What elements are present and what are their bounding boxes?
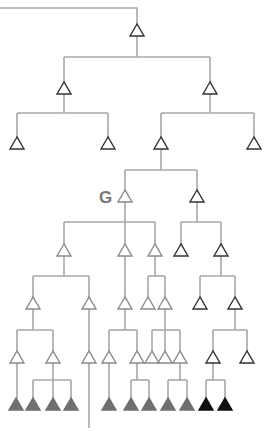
- open-triangle-node-icon: [214, 244, 228, 256]
- filled-gray-triangle-leaf-icon: [180, 398, 194, 410]
- open-triangle-node-icon: [46, 351, 60, 363]
- open-triangle-node-icon: [154, 137, 168, 149]
- open-triangle-node-icon: [26, 297, 40, 309]
- filled-gray-triangle-leaf-icon: [64, 398, 78, 410]
- open-triangle-node-icon: [10, 351, 24, 363]
- open-triangle-node-icon: [173, 351, 187, 363]
- tree-nodes: [9, 24, 261, 410]
- filled-gray-triangle-leaf-icon: [124, 398, 138, 410]
- open-triangle-node-icon: [130, 24, 144, 36]
- open-triangle-node-icon: [174, 244, 188, 256]
- filled-gray-triangle-leaf-icon: [9, 398, 23, 410]
- open-triangle-node-icon: [82, 351, 96, 363]
- open-triangle-node-icon: [228, 297, 242, 309]
- open-triangle-node-icon: [190, 190, 204, 202]
- open-triangle-node-icon: [141, 297, 155, 309]
- open-triangle-node-icon: [193, 297, 207, 309]
- open-triangle-node-icon: [130, 351, 144, 363]
- clade-label-g: G: [99, 188, 112, 207]
- phylogenetic-tree-diagram: G: [0, 0, 265, 431]
- open-triangle-node-icon: [145, 351, 159, 363]
- open-triangle-node-icon: [102, 351, 116, 363]
- open-triangle-node-icon: [247, 137, 261, 149]
- open-triangle-node-icon: [118, 244, 132, 256]
- filled-black-triangle-leaf-icon: [218, 398, 232, 410]
- open-triangle-node-icon: [10, 137, 24, 149]
- open-triangle-node-icon: [203, 82, 217, 94]
- open-triangle-node-icon: [82, 297, 96, 309]
- open-triangle-node-icon: [206, 351, 220, 363]
- open-triangle-node-icon: [240, 351, 254, 363]
- tree-edges: [0, 8, 254, 428]
- open-triangle-node-icon: [158, 351, 172, 363]
- open-triangle-node-icon: [101, 137, 115, 149]
- filled-gray-triangle-leaf-icon: [46, 398, 60, 410]
- open-triangle-node-icon: [57, 82, 71, 94]
- open-triangle-node-icon: [158, 297, 172, 309]
- open-triangle-node-icon: [118, 190, 132, 202]
- open-triangle-node-icon: [118, 297, 132, 309]
- filled-gray-triangle-leaf-icon: [142, 398, 156, 410]
- open-triangle-node-icon: [57, 244, 71, 256]
- filled-gray-triangle-leaf-icon: [161, 398, 175, 410]
- root-branch-line: [0, 8, 137, 24]
- filled-gray-triangle-leaf-icon: [26, 398, 40, 410]
- filled-black-triangle-leaf-icon: [199, 398, 213, 410]
- open-triangle-node-icon: [148, 244, 162, 256]
- filled-gray-triangle-leaf-icon: [102, 398, 116, 410]
